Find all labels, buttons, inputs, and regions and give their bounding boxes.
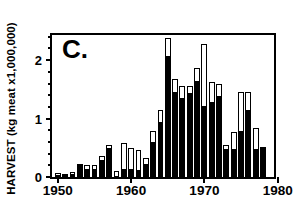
bar-solid-segment	[260, 148, 266, 177]
bar-1968	[187, 86, 193, 177]
bar-open-segment	[114, 171, 120, 177]
y-tick-mark	[48, 71, 52, 73]
bar-1965	[165, 38, 171, 177]
bar-solid-segment	[187, 93, 193, 177]
bar-solid-segment	[121, 169, 127, 177]
bar-1961	[136, 150, 142, 177]
bar-solid-segment	[158, 122, 164, 177]
bar-solid-segment	[216, 96, 222, 177]
bar-solid-segment	[231, 149, 237, 177]
y-tick-mark	[48, 47, 52, 49]
bar-solid-segment	[128, 169, 134, 177]
bar-1975	[238, 92, 244, 177]
bar-1976	[245, 92, 251, 177]
bar-1952	[70, 172, 76, 177]
bar-1964	[158, 110, 164, 177]
y-tick-mark	[48, 164, 52, 166]
bar-1973	[223, 145, 229, 177]
bar-solid-segment	[253, 149, 259, 177]
bar-1954	[84, 165, 90, 177]
bar-1969	[194, 68, 200, 177]
bar-1962	[143, 158, 149, 177]
bar-1960	[128, 148, 134, 177]
bar-solid-segment	[209, 102, 215, 177]
y-tick-label: 0	[35, 171, 42, 184]
chart-figure: HARVEST (kg meat x1,000,000) C. 012 1950…	[0, 0, 298, 217]
bar-1977	[253, 128, 259, 177]
y-tick-label: 1	[35, 112, 42, 125]
bar-solid-segment	[223, 149, 229, 177]
bar-solid-segment	[172, 92, 178, 177]
plot-area: C. 012 1950196019701980	[50, 33, 276, 179]
y-tick-mark	[48, 153, 52, 155]
y-tick-mark	[48, 83, 52, 85]
y-tick-mark	[48, 141, 52, 143]
y-tick-mark	[48, 129, 52, 131]
y-tick-mark	[48, 36, 52, 38]
panel-label: C.	[62, 36, 88, 62]
bar-solid-segment	[194, 81, 200, 177]
bar-solid-segment	[245, 110, 251, 177]
y-axis-title: HARVEST (kg meat x1,000,000)	[0, 0, 22, 217]
y-tick-mark	[46, 176, 52, 178]
x-tick-label: 1980	[263, 184, 293, 198]
bar-solid-segment	[179, 98, 185, 177]
bar-1963	[150, 131, 156, 177]
bar-1966	[172, 79, 178, 177]
bar-1958	[114, 171, 120, 177]
y-tick-mark	[48, 106, 52, 108]
bar-solid-segment	[92, 169, 98, 177]
bar-solid-segment	[62, 175, 68, 177]
bar-solid-segment	[84, 169, 90, 177]
bar-solid-segment	[143, 164, 149, 177]
y-tick-label: 2	[35, 54, 42, 67]
bar-solid-segment	[70, 174, 76, 177]
bar-1972	[216, 84, 222, 177]
bar-1967	[179, 86, 185, 177]
bar-solid-segment	[238, 131, 244, 177]
x-tick-label: 1950	[43, 184, 73, 198]
bar-1953	[77, 164, 83, 177]
x-tick-label: 1960	[116, 184, 146, 198]
bar-1957	[106, 145, 112, 177]
bar-solid-segment	[106, 148, 112, 177]
bar-1955	[92, 165, 98, 177]
bar-1956	[99, 156, 105, 177]
y-tick-mark	[48, 94, 52, 96]
y-tick-mark	[46, 59, 52, 61]
bar-solid-segment	[77, 164, 83, 177]
y-tick-mark	[46, 118, 52, 120]
bar-solid-segment	[150, 142, 156, 177]
bar-solid-segment	[201, 106, 207, 177]
bar-solid-segment	[165, 56, 171, 177]
bar-1970	[201, 44, 207, 177]
x-tick-label: 1970	[189, 184, 219, 198]
bar-solid-segment	[136, 170, 142, 177]
bar-1971	[209, 82, 215, 177]
bar-solid-segment	[99, 160, 105, 177]
bar-1959	[121, 143, 127, 177]
bar-1978	[260, 147, 266, 177]
bar-1951	[62, 174, 68, 178]
bar-1974	[231, 132, 237, 177]
plot-inner: C. 012 1950196019701980	[52, 35, 274, 177]
